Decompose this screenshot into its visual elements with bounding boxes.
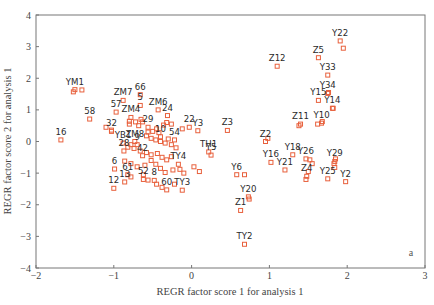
point-label: 12 (108, 175, 119, 185)
panel-label: a (409, 247, 414, 258)
point-label: ZM7 (114, 87, 133, 97)
data-point-marker (165, 158, 169, 162)
data-point-marker (154, 162, 158, 166)
point-label: 8 (152, 167, 157, 177)
data-point-marker (163, 170, 167, 174)
data-point-marker (243, 242, 247, 246)
data-point-marker (192, 165, 196, 169)
point-labels: YM1165857ZM7665ZM624ZM4322922Y35410YB1ZM… (55, 28, 351, 241)
data-point-marker (269, 160, 273, 164)
point-label: ZM4 (122, 104, 141, 114)
x-tick-label: 2 (345, 270, 350, 281)
x-tick-label: 0 (189, 270, 194, 281)
y-tick-label: −2 (20, 199, 31, 210)
plot-frame (36, 15, 425, 268)
point-label: Y20 (239, 184, 256, 194)
point-label: 52 (138, 166, 149, 176)
data-point-marker (149, 136, 153, 140)
data-point-marker (154, 138, 158, 142)
data-point-marker (155, 152, 159, 156)
data-point-marker (169, 122, 173, 126)
data-point-marker (275, 64, 279, 68)
point-label: 24 (162, 103, 173, 113)
data-point-marker (146, 178, 150, 182)
point-label: 54 (169, 127, 180, 137)
data-point-marker (180, 127, 184, 131)
data-point-marker (121, 98, 125, 102)
data-point-marker (160, 155, 164, 159)
data-point-marker (283, 168, 287, 172)
point-label: 58 (84, 106, 95, 116)
point-label: Y33 (319, 62, 336, 72)
data-point-marker (114, 110, 118, 114)
point-label: Z1 (235, 197, 246, 207)
data-point-marker (197, 170, 201, 174)
data-point-marker (112, 186, 116, 190)
point-label: 16 (55, 127, 66, 137)
y-axis-title: REGR factor score 2 for analysis 1 (2, 68, 13, 215)
data-point-marker (166, 137, 170, 141)
data-point-marker (172, 138, 176, 142)
data-point-marker (243, 173, 247, 177)
data-point-marker (225, 128, 229, 132)
point-label: Z12 (269, 53, 286, 63)
point-label: Y2 (339, 169, 351, 179)
data-point-marker (158, 135, 162, 139)
point-label: 13 (119, 169, 130, 179)
point-label: YM1 (65, 77, 84, 87)
data-point-marker (163, 141, 167, 145)
data-point-marker (113, 167, 117, 171)
data-point-marker (196, 129, 200, 133)
data-point-marker (338, 39, 342, 43)
point-label: 60 (161, 177, 172, 187)
point-label: Y26 (297, 146, 314, 156)
point-label: 29 (143, 114, 154, 124)
data-point-marker (341, 46, 345, 50)
point-label: 42 (137, 143, 148, 153)
y-tick-label: 3 (26, 41, 31, 52)
scatter-chart: −2−10123−4−3−2−101234 YM1165857ZM7665ZM6… (0, 0, 434, 305)
point-label: TY4 (169, 151, 186, 161)
data-point-marker (109, 129, 113, 133)
data-point-marker (88, 117, 92, 121)
point-label: Y22 (331, 28, 348, 38)
point-label: Z5 (313, 45, 324, 55)
data-point-marker (80, 88, 84, 92)
point-label: Y3 (191, 118, 203, 128)
point-label: 10 (155, 124, 166, 134)
x-axis-title: REGR factor score 1 for analysis 1 (157, 286, 304, 297)
point-label: TY3 (173, 177, 190, 187)
data-point-marker (180, 188, 184, 192)
data-point-marker (59, 138, 63, 142)
y-tick-label: 4 (26, 10, 31, 21)
point-label: Z4 (301, 163, 312, 173)
y-tick-label: 1 (26, 104, 31, 115)
data-point-marker (149, 158, 153, 162)
data-point-marker (174, 146, 178, 150)
y-tick-label: 0 (26, 136, 31, 147)
data-point-marker (165, 188, 169, 192)
data-point-marker (156, 108, 160, 112)
point-label: Y5 (205, 142, 217, 152)
point-label: 9 (134, 132, 139, 142)
point-label: Z11 (292, 111, 309, 121)
data-point-marker (123, 180, 127, 184)
data-point-marker (169, 143, 173, 147)
axis-ticks: −2−10123−4−3−2−101234 (20, 10, 427, 282)
point-label: Y6 (230, 162, 242, 172)
data-point-marker (326, 177, 330, 181)
point-label: TY2 (236, 231, 253, 241)
point-label: 66 (135, 82, 146, 92)
x-tick-label: −1 (108, 270, 119, 281)
data-point-marker (149, 153, 153, 157)
point-label: 28 (118, 138, 129, 148)
data-point-marker (235, 173, 239, 177)
point-label: Y25 (319, 166, 336, 176)
x-tick-label: 3 (423, 270, 428, 281)
point-label: 6 (112, 156, 117, 166)
point-label: 32 (106, 118, 117, 128)
data-point-marker (127, 122, 131, 126)
y-tick-label: −4 (20, 263, 31, 274)
y-tick-label: −3 (20, 231, 31, 242)
point-label: 5 (138, 92, 143, 102)
